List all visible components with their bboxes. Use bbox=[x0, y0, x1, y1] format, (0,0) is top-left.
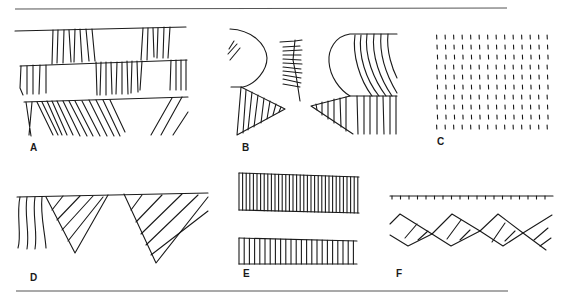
panel-label-b: B bbox=[242, 143, 249, 153]
top-rule bbox=[15, 8, 507, 9]
panel-a-drawing bbox=[15, 27, 188, 136]
panel-f-drawing bbox=[390, 196, 553, 250]
pattern-plate bbox=[0, 0, 576, 301]
panel-d-drawing bbox=[17, 193, 208, 263]
panel-label-f: F bbox=[396, 269, 402, 279]
panel-label-e: E bbox=[243, 269, 250, 279]
panel-label-c: C bbox=[437, 137, 444, 147]
panel-e-drawing bbox=[239, 173, 359, 264]
panel-b-drawing bbox=[228, 29, 397, 135]
panel-label-d: D bbox=[30, 273, 37, 283]
panel-c-drawing bbox=[437, 35, 548, 129]
panel-label-a: A bbox=[30, 143, 37, 153]
